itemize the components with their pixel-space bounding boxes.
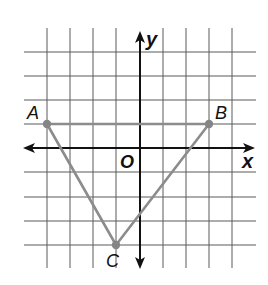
- point-label-a: A: [26, 103, 39, 123]
- coordinate-plane: x y O A B C: [0, 0, 268, 285]
- point-label-b: B: [215, 103, 227, 123]
- y-axis: [135, 31, 145, 269]
- point-b-dot: [205, 120, 213, 128]
- point-c-dot: [112, 241, 120, 249]
- point-a-dot: [43, 120, 51, 128]
- x-axis-label: x: [241, 150, 254, 172]
- origin-label: O: [120, 152, 134, 172]
- point-label-c: C: [106, 251, 120, 271]
- y-axis-label: y: [145, 28, 158, 50]
- triangle-abc: [47, 124, 209, 245]
- segment-ca: [47, 124, 116, 245]
